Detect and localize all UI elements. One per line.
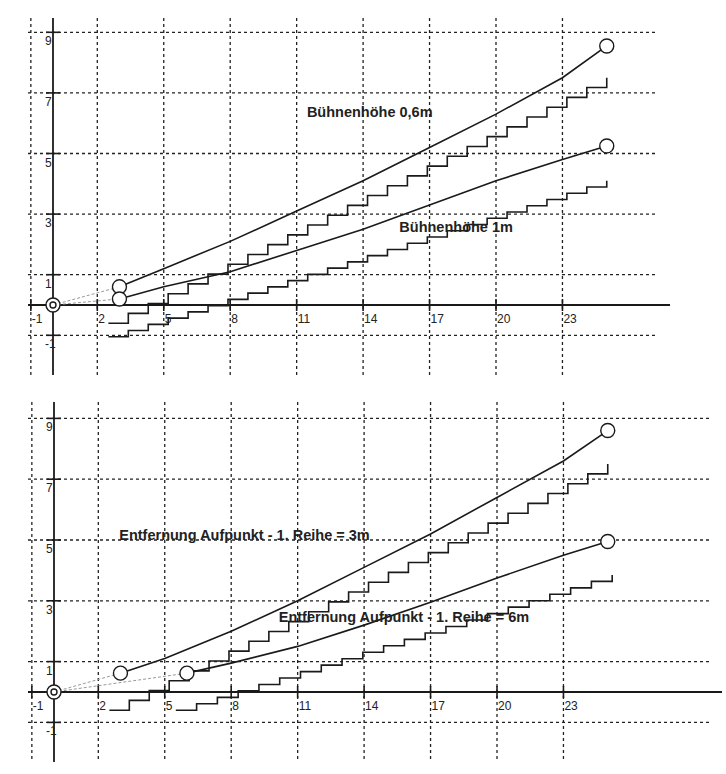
construction-line [53,287,119,305]
x-tick-label: -1 [32,312,43,326]
chart-buehnenhoehe: -1258111417202397531-1Bühnenhöhe 0,6mBüh… [28,18,670,375]
x-tick-label: 20 [498,699,512,713]
y-tick-label: 9 [46,420,53,434]
x-tick-label: 23 [564,699,578,713]
stage-point-marker [601,424,615,438]
x-tick-label: 5 [166,699,173,713]
y-tick-label: 1 [45,277,52,291]
y-tick-label: 1 [46,664,53,678]
seating-rows-stairs [108,181,606,337]
y-tick-label: 5 [46,542,53,556]
x-tick-label: 14 [365,699,379,713]
origin-marker-inner [51,689,57,695]
x-tick-label: 11 [299,699,312,713]
stage-point-marker [600,39,614,53]
sight-line [119,46,606,287]
eye-point-marker [113,666,127,680]
annotation-label: Entfernung Aufpunkt - 1. Reihe = 6m [279,609,529,625]
x-tick-label: 23 [563,312,577,326]
y-tick-label: 9 [45,34,52,48]
eye-point-marker [112,292,126,306]
chart-canvas: -1258111417202397531-1Bühnenhöhe 0,6mBüh… [0,0,726,774]
y-tick-label: 7 [45,95,52,109]
y-tick-label: -1 [45,337,56,351]
stage-point-marker [600,139,614,153]
y-tick-label: 3 [46,603,53,617]
x-tick-label: 11 [298,312,311,326]
y-tick-label: 5 [45,156,52,170]
y-tick-label: -1 [46,724,57,738]
sight-line [187,542,608,674]
x-tick-label: 8 [232,699,239,713]
seating-rows-stairs [176,575,612,710]
x-tick-label: 2 [99,699,106,713]
x-tick-label: -1 [33,699,44,713]
x-tick-label: 2 [98,312,105,326]
y-tick-label: 7 [46,481,53,495]
x-tick-label: 20 [497,312,511,326]
eye-point-marker [180,666,194,680]
annotation-label: Bühnenhöhe 0,6m [307,104,433,120]
y-tick-label: 3 [45,216,52,230]
x-tick-label: 17 [431,312,445,326]
x-tick-label: 14 [364,312,378,326]
x-tick-label: 8 [231,312,238,326]
origin-marker-inner [50,302,56,308]
annotation-label: Entfernung Aufpunkt - 1. Reihe = 3m [119,527,369,543]
annotation-label: Bühnenhöhe 1m [399,219,513,235]
stage-point-marker [601,535,615,549]
chart-entfernung: -1258111417202397531-1Entfernung Aufpunk… [28,402,722,762]
x-tick-label: 17 [432,699,446,713]
construction-line [54,673,120,692]
